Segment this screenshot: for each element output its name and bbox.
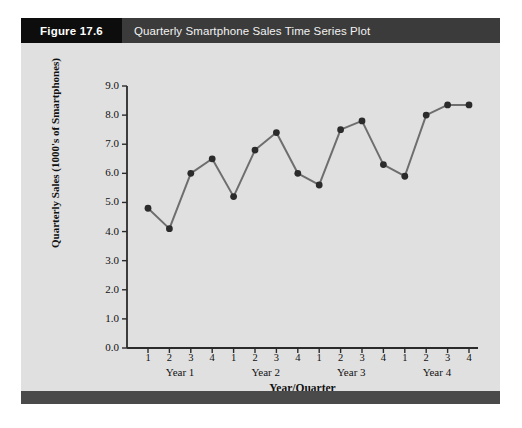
x-tick-label: 2 bbox=[333, 352, 349, 363]
data-series-line bbox=[148, 105, 469, 229]
figure-bottom-rule bbox=[21, 391, 500, 404]
x-tick-label: 3 bbox=[354, 352, 370, 363]
data-point-marker bbox=[359, 118, 366, 125]
y-tick-label: 3.0 bbox=[85, 254, 119, 266]
x-tick-label: 1 bbox=[226, 352, 242, 363]
x-tick-label: 3 bbox=[268, 352, 284, 363]
data-point-marker bbox=[466, 102, 473, 109]
x-tick-label: 3 bbox=[183, 352, 199, 363]
x-group-label: Year 3 bbox=[316, 366, 386, 378]
data-point-marker bbox=[230, 193, 237, 200]
data-point-marker bbox=[273, 129, 280, 136]
y-tick-label: 6.0 bbox=[85, 166, 119, 178]
figure-number-label: Figure 17.6 bbox=[40, 25, 103, 37]
y-tick-label: 1.0 bbox=[85, 312, 119, 324]
x-tick-label: 2 bbox=[247, 352, 263, 363]
data-point-marker bbox=[444, 102, 451, 109]
y-tick-label: 4.0 bbox=[85, 225, 119, 237]
data-point-marker bbox=[401, 173, 408, 180]
figure-container: Figure 17.6 Quarterly Smartphone Sales T… bbox=[21, 18, 500, 406]
figure-number-box: Figure 17.6 bbox=[21, 18, 122, 43]
x-group-label: Year 2 bbox=[231, 366, 301, 378]
data-point-marker bbox=[337, 126, 344, 133]
x-tick-label: 2 bbox=[161, 352, 177, 363]
data-point-marker bbox=[316, 182, 323, 189]
x-tick-label: 1 bbox=[311, 352, 327, 363]
x-tick-label: 1 bbox=[397, 352, 413, 363]
x-tick-label: 1 bbox=[140, 352, 156, 363]
data-point-marker bbox=[294, 170, 301, 177]
y-tick-label: 2.0 bbox=[85, 283, 119, 295]
x-tick-label: 4 bbox=[461, 352, 477, 363]
data-point-marker bbox=[380, 161, 387, 168]
figure-title-label: Quarterly Smartphone Sales Time Series P… bbox=[134, 25, 370, 37]
x-tick-label: 4 bbox=[290, 352, 306, 363]
figure-title-box: Quarterly Smartphone Sales Time Series P… bbox=[122, 18, 500, 43]
x-tick-label: 4 bbox=[204, 352, 220, 363]
x-group-label: Year 1 bbox=[145, 366, 215, 378]
y-tick-label: 7.0 bbox=[85, 137, 119, 149]
x-group-label: Year 4 bbox=[402, 366, 472, 378]
chart-svg bbox=[21, 43, 500, 391]
data-point-marker bbox=[252, 147, 259, 154]
x-tick-label: 4 bbox=[375, 352, 391, 363]
y-tick-label: 8.0 bbox=[85, 108, 119, 120]
data-point-marker bbox=[166, 225, 173, 232]
data-point-marker bbox=[145, 205, 152, 212]
data-point-marker bbox=[209, 155, 216, 162]
y-tick-label: 9.0 bbox=[85, 79, 119, 91]
y-tick-label: 0.0 bbox=[85, 341, 119, 353]
figure-header: Figure 17.6 Quarterly Smartphone Sales T… bbox=[21, 18, 500, 43]
x-tick-label: 3 bbox=[440, 352, 456, 363]
y-axis-title: Quarterly Sales (1000's of Smartphones) bbox=[49, 53, 61, 253]
line-chart: Quarterly Sales (1000's of Smartphones) … bbox=[21, 43, 500, 391]
x-tick-label: 2 bbox=[418, 352, 434, 363]
data-point-marker bbox=[187, 170, 194, 177]
data-point-marker bbox=[423, 112, 430, 119]
chart-panel: Quarterly Sales (1000's of Smartphones) … bbox=[21, 43, 500, 391]
y-tick-label: 5.0 bbox=[85, 195, 119, 207]
